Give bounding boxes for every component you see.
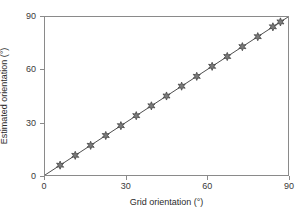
data-point-marker bbox=[239, 43, 246, 51]
data-point-marker bbox=[102, 131, 109, 139]
data-point-marker bbox=[148, 102, 155, 110]
x-axis-label: Grid orientation (°) bbox=[44, 197, 289, 207]
y-tick-mark bbox=[40, 69, 44, 70]
y-tick-label: 0 bbox=[31, 171, 36, 181]
data-point-marker bbox=[87, 141, 94, 149]
data-point-marker bbox=[57, 161, 64, 169]
x-tick-mark bbox=[207, 176, 208, 180]
x-tick-mark bbox=[44, 176, 45, 180]
x-tick-mark bbox=[289, 176, 290, 180]
y-axis-label: Estimated orientation (°) bbox=[0, 48, 9, 145]
y-tick-label: 60 bbox=[26, 64, 36, 74]
data-point-marker bbox=[133, 112, 140, 120]
y-tick-mark bbox=[40, 16, 44, 17]
x-tick-label: 30 bbox=[121, 181, 131, 191]
x-tick-label: 0 bbox=[41, 181, 46, 191]
x-tick-label: 60 bbox=[202, 181, 212, 191]
data-point-marker bbox=[193, 72, 200, 80]
data-point-marker bbox=[163, 92, 170, 100]
chart-figure: 0306090 0306090 Grid orientation (°) Est… bbox=[0, 0, 306, 222]
data-point-marker bbox=[277, 18, 284, 26]
y-tick-label: 30 bbox=[26, 118, 36, 128]
data-point-marker bbox=[72, 151, 79, 159]
x-tick-label: 90 bbox=[284, 181, 294, 191]
x-tick-mark bbox=[126, 176, 127, 180]
plot-data-area bbox=[45, 17, 288, 175]
y-tick-mark bbox=[40, 123, 44, 124]
data-point-marker bbox=[209, 62, 216, 70]
data-point-marker bbox=[269, 23, 276, 31]
data-point-marker bbox=[254, 33, 261, 41]
data-point-marker bbox=[178, 82, 185, 90]
plot-frame bbox=[44, 16, 289, 176]
y-tick-label: 90 bbox=[26, 11, 36, 21]
y-tick-mark bbox=[40, 176, 44, 177]
data-point-marker bbox=[224, 52, 231, 60]
data-point-marker bbox=[117, 122, 124, 130]
